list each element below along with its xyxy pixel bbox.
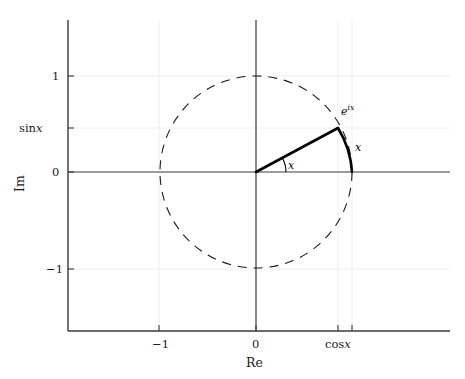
cos-function-name: cos xyxy=(325,337,344,351)
cos-argument: x xyxy=(344,337,351,351)
angle-label: x xyxy=(288,159,294,172)
ytick-label-sinx: sinx xyxy=(19,121,43,135)
axes-spines xyxy=(68,20,450,331)
arc-length-label: x xyxy=(355,141,361,154)
sin-argument: x xyxy=(36,121,43,135)
gridlines xyxy=(68,20,450,331)
euler-point-label: eix xyxy=(341,105,354,118)
coordinate-axes xyxy=(68,20,450,331)
tick-marks xyxy=(68,76,352,331)
sin-function-name: sin xyxy=(19,121,36,135)
xtick-label-0: 0 xyxy=(252,337,259,351)
radius-vector xyxy=(256,128,338,172)
plot-canvas xyxy=(0,0,465,379)
re-axis-title: Re xyxy=(246,355,263,370)
ytick-label-1: 1 xyxy=(52,69,59,83)
im-axis-title: Im xyxy=(12,175,27,192)
ytick-label-0: 0 xyxy=(52,165,59,179)
xtick-label-cosx: cosx xyxy=(325,337,351,351)
euler-formula-figure: 1 sinx 0 −1 −1 0 cosx Re Im eix x x xyxy=(0,0,465,379)
xtick-label-neg1: −1 xyxy=(152,337,169,351)
ytick-label-neg1: −1 xyxy=(46,262,63,276)
euler-exponent: ix xyxy=(348,103,355,112)
angle-arc xyxy=(282,158,286,172)
